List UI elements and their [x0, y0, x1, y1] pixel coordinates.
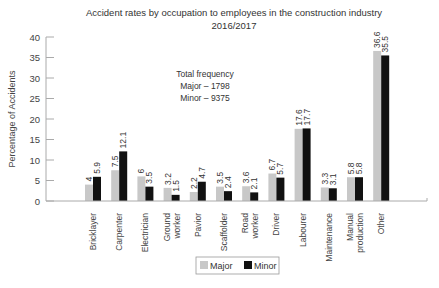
y-tick-label: 15	[29, 134, 40, 145]
bar-minor	[355, 177, 363, 201]
bar-minor	[276, 178, 284, 201]
y-tick-label: 5	[35, 175, 40, 186]
bar-minor	[198, 182, 206, 201]
bar-minor	[303, 128, 311, 201]
value-label: 5.9	[92, 162, 102, 174]
bar-minor	[119, 151, 127, 201]
y-tick-label: 20	[29, 114, 40, 125]
bar-minor	[224, 191, 232, 201]
bar-minor	[381, 55, 389, 201]
value-label: 3.5	[144, 172, 154, 184]
legend-swatch-minor	[244, 261, 252, 269]
annotation-line-3: Minor – 9375	[180, 93, 230, 103]
category-label: Scaffolder	[219, 213, 229, 251]
bar-group: 3.52.4Scaffolder	[215, 172, 233, 252]
bar-group: 3.21.5Groundworker	[162, 173, 182, 242]
bar-major	[268, 174, 276, 201]
bar-chart: Accident rates by occupation to employee…	[0, 0, 439, 288]
bar-minor	[329, 188, 337, 201]
y-axis: 0510152025303540	[29, 32, 54, 207]
annotation-line-1: Total frequency	[176, 69, 234, 79]
bar-group: 7.512.1Carpenter	[110, 132, 128, 251]
bar-major	[347, 177, 355, 201]
legend-label-major: Major	[210, 261, 233, 271]
category-label: Road	[240, 213, 250, 234]
chart-title: Accident rates by occupation to employee…	[86, 7, 382, 18]
value-label: 35.5	[380, 36, 390, 53]
value-label: 5.7	[275, 163, 285, 175]
category-label: Driver	[271, 213, 281, 236]
legend-label-minor: Minor	[254, 261, 277, 271]
category-label: production	[355, 213, 365, 253]
annotation-line-2: Major – 1798	[180, 81, 230, 91]
bar-minor	[250, 192, 258, 201]
bar-group: 45.9Bricklayer	[84, 162, 102, 251]
value-label: 7.5	[110, 155, 120, 167]
bar-minor	[145, 187, 153, 201]
bar-group: 2.24.7Pavior	[189, 167, 207, 237]
bar-minor	[93, 177, 101, 201]
category-label: worker	[250, 213, 260, 240]
y-tick-label: 0	[35, 196, 40, 207]
value-label: 4	[84, 177, 94, 182]
category-label: Pavior	[193, 213, 203, 237]
y-tick-label: 30	[29, 73, 40, 84]
bar-major	[321, 187, 329, 201]
bar-major	[373, 51, 381, 201]
category-label: Electrician	[140, 213, 150, 252]
value-label: 2.4	[223, 176, 233, 188]
bar-major	[190, 192, 198, 201]
category-label: Manual	[345, 213, 355, 241]
bar-group: 3.62.1Roadworker	[240, 171, 260, 239]
value-label: 5.8	[354, 162, 364, 174]
category-label: Other	[376, 213, 386, 234]
value-label: 2.1	[249, 177, 259, 189]
bar-group: 63.5Electrician	[136, 168, 154, 252]
legend-swatch-major	[200, 261, 208, 269]
chart-subtitle: 2016/2017	[212, 20, 257, 31]
category-label: Bricklayer	[88, 213, 98, 250]
value-label: 4.7	[197, 167, 207, 179]
bar-group: 5.85.8Manualproduction	[345, 162, 365, 253]
category-label: Ground	[162, 213, 172, 242]
category-label: Carpenter	[114, 213, 124, 251]
x-axis	[46, 198, 427, 201]
category-label: worker	[172, 213, 182, 240]
bar-major	[111, 170, 119, 201]
y-tick-label: 25	[29, 93, 40, 104]
bars: 45.9Bricklayer7.512.1Carpenter63.5Electr…	[84, 31, 390, 262]
value-label: 12.1	[118, 132, 128, 149]
y-tick-label: 40	[29, 32, 40, 43]
bar-major	[295, 129, 303, 201]
value-label: 3.1	[328, 173, 338, 185]
category-label: Maintenance	[324, 213, 334, 262]
y-tick-label: 35	[29, 52, 40, 63]
y-axis-label: Percentage of Accidents	[7, 70, 17, 168]
bar-group: 17.617.7Labourer	[294, 109, 312, 247]
legend: Major Minor	[196, 257, 279, 274]
value-label: 17.7	[302, 109, 312, 126]
bar-major	[85, 185, 93, 201]
bar-group: 6.75.7Driver	[267, 158, 285, 235]
bar-group: 36.635.5Other	[372, 31, 390, 234]
category-label: Labourer	[298, 213, 308, 247]
value-label: 1.5	[171, 180, 181, 192]
bar-group: 3.33.1Maintenance	[320, 172, 338, 261]
bar-minor	[172, 195, 180, 201]
annotation-box: Total frequency Major – 1798 Minor – 937…	[176, 69, 234, 103]
y-tick-label: 10	[29, 155, 40, 166]
